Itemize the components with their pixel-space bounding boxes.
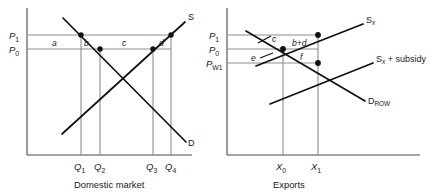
sx-subsidy-curve [270, 63, 373, 104]
area-label-b: b [84, 38, 89, 48]
right-quantity-tick-x1: X1 [310, 161, 321, 174]
area-label-d: d [159, 38, 164, 48]
right-area-label-e: e [251, 53, 256, 63]
left-price-tick-p0: P0 [9, 44, 19, 57]
export-subsidy-diagram: P1 P0 Q1 Q2 Q3 Q4 S D a b c d Domestic m… [0, 0, 439, 194]
point-demand-p0 [97, 46, 102, 51]
point-supply-p0 [150, 46, 155, 51]
leader-area-e [260, 53, 273, 58]
left-panel-caption: Domestic market [74, 179, 145, 190]
supply-curve-label: S [188, 12, 194, 22]
demand-curve-label: D [188, 138, 195, 148]
point-subsidy-drow-pw1 [315, 60, 321, 66]
area-label-a: a [52, 38, 57, 48]
left-price-tick-p1: P1 [9, 30, 19, 43]
sx-subsidy-curve-label: Sx + subsidy [376, 54, 426, 65]
point-demand-p1 [78, 32, 83, 37]
right-area-label-bd: b+d [292, 38, 307, 48]
right-price-tick-pw1: PW1 [206, 58, 223, 71]
right-price-tick-p1: P1 [209, 30, 219, 43]
left-panel-svg: P1 P0 Q1 Q2 Q3 Q4 S D a b c d Domestic m… [0, 0, 215, 194]
left-quantity-tick-q3: Q3 [146, 161, 157, 174]
right-panel-caption: Exports [273, 179, 305, 190]
drow-curve-label: DROW [368, 96, 391, 107]
right-quantity-tick-x0: X0 [275, 161, 286, 174]
sx-curve [256, 24, 363, 66]
right-panel-svg: P1 P0 PW1 X0 X1 Sx Sx + subsidy DROW c b… [215, 0, 439, 194]
sx-curve-label: Sx [366, 15, 376, 26]
right-area-label-c: c [272, 34, 277, 44]
point-supply-p1 [168, 32, 173, 37]
point-sx-p1 [315, 32, 321, 38]
right-price-tick-p0: P0 [209, 44, 219, 57]
left-quantity-tick-q2: Q2 [94, 161, 105, 174]
left-quantity-tick-q4: Q4 [165, 161, 176, 174]
right-area-label-f: f [300, 52, 304, 62]
panel-domestic-market: P1 P0 Q1 Q2 Q3 Q4 S D a b c d Domestic m… [0, 0, 215, 194]
left-quantity-tick-q1: Q1 [74, 161, 85, 174]
panel-exports: P1 P0 PW1 X0 X1 Sx Sx + subsidy DROW c b… [215, 0, 439, 194]
area-label-c: c [122, 38, 127, 48]
point-sx-drow-p0 [280, 46, 286, 52]
